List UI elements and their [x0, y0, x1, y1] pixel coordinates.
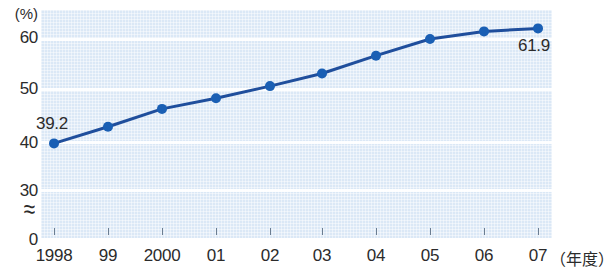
x-tick-99 — [108, 228, 109, 235]
x-tick-label-1998: 1998 — [36, 246, 73, 266]
x-tick-label-05: 05 — [421, 246, 439, 266]
x-tick-label-2000: 2000 — [144, 246, 181, 266]
x-tick-01 — [216, 228, 217, 235]
y-tick-label-0: 0 — [2, 230, 38, 250]
gridline-40 — [41, 141, 552, 144]
x-tick-03 — [322, 228, 323, 235]
x-tick-label-04: 04 — [367, 246, 385, 266]
x-tick-02 — [270, 228, 271, 235]
x-tick-label-07: 07 — [529, 246, 547, 266]
plot-area — [41, 10, 552, 238]
gridline-30 — [41, 189, 552, 192]
x-tick-label-99: 99 — [99, 246, 117, 266]
axis-break-icon: ≈ — [23, 195, 35, 221]
x-tick-04 — [376, 228, 377, 235]
x-tick-label-06: 06 — [475, 246, 493, 266]
x-tick-2000 — [162, 228, 163, 235]
x-axis-unit-label: （年度） — [550, 246, 608, 270]
y-axis-unit-label: (%) — [15, 5, 38, 22]
x-tick-label-01: 01 — [207, 246, 225, 266]
x-tick-label-02: 02 — [261, 246, 279, 266]
y-tick-label-60: 60 — [2, 28, 38, 48]
datapoint-label-1998: 39.2 — [36, 114, 68, 134]
x-tick-05 — [430, 228, 431, 235]
x-tick-07 — [538, 228, 539, 235]
gridline-60 — [41, 38, 552, 41]
x-tick-label-03: 03 — [313, 246, 331, 266]
x-tick-1998 — [54, 228, 55, 235]
datapoint-label-07: 61.9 — [518, 36, 550, 56]
y-tick-label-50: 50 — [2, 79, 38, 99]
x-tick-06 — [484, 228, 485, 235]
gridline-50 — [41, 88, 552, 91]
y-tick-label-40: 40 — [2, 133, 38, 153]
y-axis: (%) 60 50 40 30 ≈ 0 — [0, 0, 38, 277]
